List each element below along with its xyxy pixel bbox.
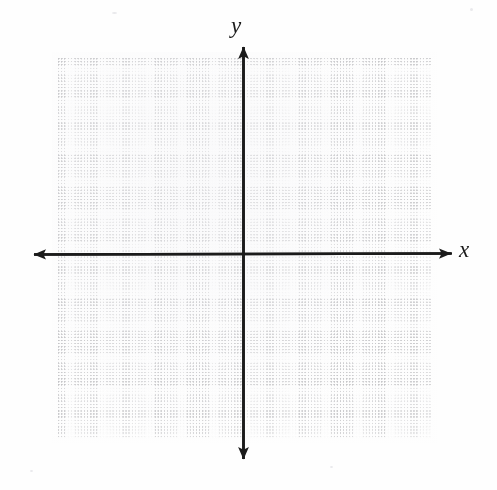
- axes-drawing: [0, 0, 497, 490]
- y-axis-label: y: [231, 14, 241, 37]
- x-axis-label: x: [459, 238, 469, 261]
- coordinate-plane-figure: y x: [0, 0, 497, 490]
